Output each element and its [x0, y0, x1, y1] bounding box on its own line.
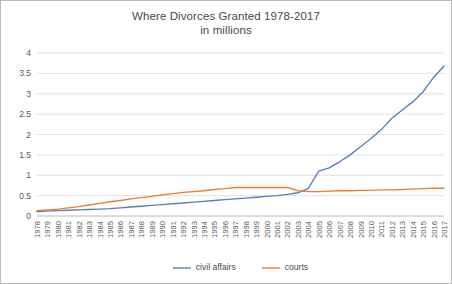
y-axis-tick-label: 0.5: [19, 191, 31, 201]
x-axis-tick-label: 1998: [242, 221, 251, 238]
x-axis-tick-label: 1995: [210, 221, 219, 238]
x-axis-tick-label: 1987: [127, 221, 136, 238]
x-axis-tick-label: 2003: [294, 221, 303, 238]
x-axis-tick-label: 2014: [409, 221, 418, 238]
x-axis-tick-label: 2004: [304, 221, 313, 238]
x-axis-tick-label: 2017: [440, 221, 449, 238]
x-axis-tick-label: 1999: [252, 221, 261, 238]
x-axis-tick-label: 2008: [346, 221, 355, 238]
x-axis-tick-label: 1988: [137, 221, 146, 238]
x-axis-tick-label: 1989: [148, 221, 157, 238]
y-axis-tick-label: 3: [26, 89, 31, 99]
y-axis-tick-label: 1: [26, 170, 31, 180]
x-axis-tick-label: 2012: [388, 221, 397, 238]
line-chart-plot: 00.511.522.533.5419781979198019811982198…: [1, 1, 452, 284]
chart-container: Where Divorces Granted 1978-2017 in mill…: [0, 0, 452, 284]
x-axis-tick-label: 1979: [43, 221, 52, 238]
x-axis-tick-label: 2009: [357, 221, 366, 238]
y-axis-tick-label: 2: [26, 130, 31, 140]
x-axis-tick-label: 1993: [190, 221, 199, 238]
x-axis-tick-label: 2015: [419, 221, 428, 238]
x-axis-tick-label: 1992: [179, 221, 188, 238]
x-axis-tick-label: 2002: [283, 221, 292, 238]
x-axis-tick-label: 2010: [367, 221, 376, 238]
x-axis-tick-label: 1986: [116, 221, 125, 238]
x-axis-tick-label: 2006: [325, 221, 334, 238]
x-axis-tick-label: 1984: [96, 221, 105, 238]
y-axis-tick-label: 4: [26, 48, 31, 58]
x-axis-tick-label: 1985: [106, 221, 115, 238]
x-axis-tick-label: 1991: [169, 221, 178, 238]
legend-label-civil-affairs: civil affairs: [196, 262, 236, 272]
legend-label-courts: courts: [285, 262, 308, 272]
y-axis-tick-label: 0: [26, 211, 31, 221]
x-axis-tick-label: 1978: [33, 221, 42, 238]
x-axis-tick-label: 2016: [430, 221, 439, 238]
x-axis-tick-label: 2013: [398, 221, 407, 238]
y-axis-tick-label: 3.5: [19, 68, 31, 78]
y-axis-tick-label: 1.5: [19, 150, 31, 160]
x-axis-tick-label: 2005: [315, 221, 324, 238]
x-axis-tick-label: 2000: [263, 221, 272, 238]
x-axis-tick-label: 2011: [377, 221, 386, 237]
x-axis-tick-label: 1981: [64, 221, 73, 238]
x-axis-tick-label: 2001: [273, 221, 282, 238]
x-axis-tick-label: 1983: [85, 221, 94, 238]
x-axis-tick-label: 1990: [158, 221, 167, 238]
x-axis-tick-label: 1997: [231, 221, 240, 238]
x-axis-tick-label: 1996: [221, 221, 230, 238]
x-axis-tick-label: 1982: [75, 221, 84, 238]
y-axis-tick-label: 2.5: [19, 109, 31, 119]
x-axis-tick-label: 1994: [200, 221, 209, 238]
x-axis-tick-label: 1980: [54, 221, 63, 238]
x-axis-tick-label: 2007: [336, 221, 345, 238]
